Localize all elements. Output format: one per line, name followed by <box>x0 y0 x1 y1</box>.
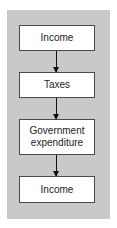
arrow-down-icon <box>56 98 57 119</box>
node-income-bottom: Income <box>19 176 95 203</box>
node-label: Government expenditure <box>29 125 84 149</box>
diagram-panel: Income Taxes Government expenditure Inco… <box>7 10 110 219</box>
node-label: Income <box>41 32 74 44</box>
node-label: Income <box>41 184 74 196</box>
node-government-expenditure: Government expenditure <box>19 119 95 155</box>
node-taxes: Taxes <box>19 72 95 98</box>
arrow-down-icon <box>56 51 57 72</box>
node-label: Taxes <box>44 79 70 91</box>
arrow-down-icon <box>56 155 57 176</box>
node-income-top: Income <box>19 25 95 51</box>
